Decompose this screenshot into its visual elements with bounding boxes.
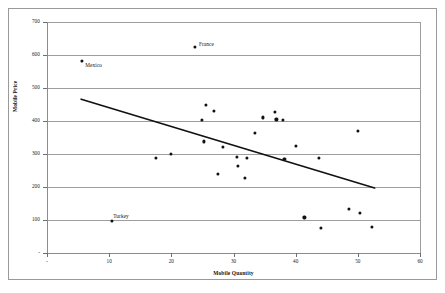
x-tick-label: 20 <box>169 259 174 264</box>
x-tick-mark <box>47 253 48 257</box>
gridline <box>47 55 420 56</box>
gridline <box>47 22 420 23</box>
data-point-label: France <box>199 42 214 48</box>
y-tick-label: 500 <box>32 85 40 90</box>
y-tick-label: 700 <box>32 19 40 24</box>
x-tick-label: 60 <box>417 259 422 264</box>
gridline <box>47 187 420 188</box>
x-tick-mark <box>171 253 172 257</box>
y-tick-label: 200 <box>32 184 40 189</box>
scatter-chart: -100200300400500600700 -102030405060 Mob… <box>0 0 445 293</box>
data-point-label: Mexico <box>85 63 102 69</box>
gridline <box>47 220 420 221</box>
y-tick-mark <box>43 220 47 221</box>
x-tick-label: 50 <box>355 259 360 264</box>
x-tick-mark <box>109 253 110 257</box>
y-tick-mark <box>43 121 47 122</box>
y-tick-mark <box>43 55 47 56</box>
chart-border <box>8 8 437 280</box>
y-axis-line <box>47 22 48 254</box>
y-tick-label: 400 <box>32 118 40 123</box>
y-tick-label: 100 <box>32 217 40 222</box>
y-tick-mark <box>43 187 47 188</box>
gridline <box>47 154 420 155</box>
x-tick-label: 10 <box>107 259 112 264</box>
x-tick-label: 30 <box>231 259 236 264</box>
x-tick-label: - <box>46 259 48 264</box>
y-tick-mark <box>43 154 47 155</box>
y-tick-label: - <box>38 250 40 255</box>
x-tick-mark <box>420 253 421 257</box>
x-tick-mark <box>234 253 235 257</box>
y-tick-label: 300 <box>32 151 40 156</box>
gridline <box>47 88 420 89</box>
x-tick-mark <box>296 253 297 257</box>
x-tick-mark <box>358 253 359 257</box>
data-point-label: Turkey <box>113 214 129 220</box>
gridline <box>47 121 420 122</box>
x-axis-title: Mobile Quantity <box>47 270 420 276</box>
y-tick-mark <box>43 88 47 89</box>
y-tick-label: 600 <box>32 52 40 57</box>
plot-right-border <box>420 22 421 254</box>
x-tick-label: 40 <box>293 259 298 264</box>
y-tick-mark <box>43 22 47 23</box>
y-axis-title: Mobile Price <box>12 81 18 112</box>
